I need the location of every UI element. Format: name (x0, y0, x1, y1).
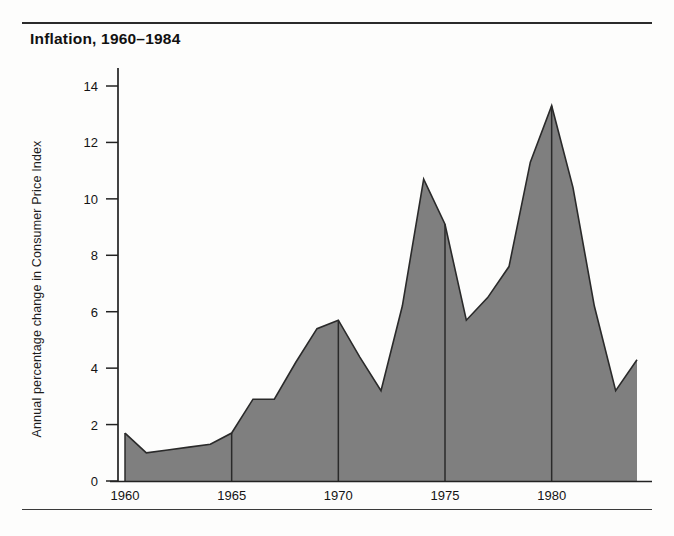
figure-page: Inflation, 1960–1984 Annual percentage c… (0, 0, 674, 536)
x-tick-label: 1970 (308, 488, 368, 503)
y-tick-label: 10 (72, 191, 98, 206)
y-tick-label: 6 (72, 304, 98, 319)
axis-ticks-group (106, 86, 118, 481)
inflation-area-chart (0, 0, 674, 536)
x-tick-label: 1960 (95, 488, 155, 503)
y-tick-label: 4 (72, 361, 98, 376)
y-tick-label: 12 (72, 135, 98, 150)
y-tick-label: 8 (72, 248, 98, 263)
area-series-fill (125, 106, 637, 481)
y-tick-label: 2 (72, 417, 98, 432)
x-tick-label: 1965 (202, 488, 262, 503)
y-tick-label: 0 (72, 474, 98, 489)
chart-plot-area: Annual percentage change in Consumer Pri… (0, 0, 674, 536)
x-tick-label: 1980 (522, 488, 582, 503)
y-tick-label: 14 (72, 79, 98, 94)
x-tick-label: 1975 (415, 488, 475, 503)
